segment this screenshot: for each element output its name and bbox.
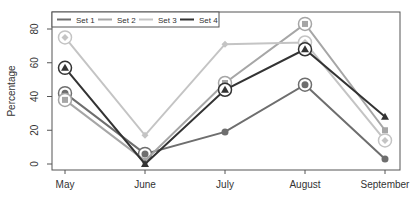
legend-label: Set 2 <box>117 16 136 25</box>
data-point-circle-icon <box>382 155 389 162</box>
series-lines <box>59 17 392 167</box>
data-point-circle-icon <box>302 81 309 88</box>
legend-label: Set 3 <box>158 16 177 25</box>
data-point-square-icon <box>382 127 388 133</box>
x-tick-label: June <box>134 179 156 190</box>
legend-label: Set 4 <box>199 16 218 25</box>
data-point-circle-icon <box>142 150 149 157</box>
line-chart: 020406080PercentageMayJuneJulyAugustSept… <box>0 0 418 199</box>
y-tick-label: 0 <box>29 161 40 167</box>
data-point-circle-icon <box>222 128 229 135</box>
y-tick-label: 80 <box>29 23 40 35</box>
y-tick-label: 20 <box>29 124 40 136</box>
y-tick-label: 60 <box>29 57 40 69</box>
legend: Set 1Set 2Set 3Set 4 <box>52 12 219 27</box>
legend-label: Set 1 <box>76 16 95 25</box>
x-tick-label: September <box>361 179 411 190</box>
x-tick-label: July <box>216 179 234 190</box>
x-tick-label: August <box>289 179 320 190</box>
data-point-square-icon <box>302 21 308 27</box>
series-set-4 <box>59 43 390 167</box>
y-tick-label: 40 <box>29 91 40 103</box>
y-axis-label: Percentage <box>6 65 17 117</box>
data-point-square-icon <box>62 97 68 103</box>
x-tick-label: May <box>56 179 75 190</box>
